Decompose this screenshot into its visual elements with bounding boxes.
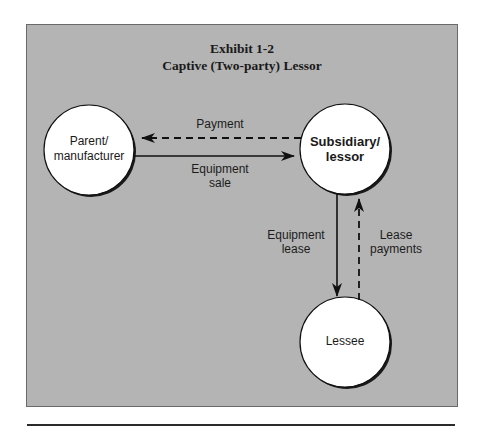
diagram-canvas <box>0 0 483 433</box>
edge-equipment-lease-label-line1: Equipment <box>256 228 336 242</box>
node-subsidiary-line1: Subsidiary/ <box>300 134 390 149</box>
node-subsidiary: Subsidiary/ lessor <box>300 134 390 164</box>
edge-lease-payments-label-line2: payments <box>356 242 436 256</box>
edge-equipment-sale-label-line2: sale <box>170 176 270 190</box>
node-subsidiary-line2: lessor <box>300 149 390 164</box>
node-lessee-line1: Lessee <box>300 334 390 349</box>
edge-lease-payments-label-line1: Lease <box>356 228 436 242</box>
node-parent: Parent/ manufacturer <box>44 134 134 164</box>
node-lessee: Lessee <box>300 334 390 349</box>
edge-equipment-sale-label-line1: Equipment <box>170 162 270 176</box>
edge-equipment-lease-label-line2: lease <box>256 242 336 256</box>
edge-equipment-lease-label: Equipment lease <box>256 228 336 256</box>
edge-lease-payments-label: Lease payments <box>356 228 436 256</box>
edge-payment-label: Payment <box>170 117 270 131</box>
edge-equipment-sale-label: Equipment sale <box>170 162 270 190</box>
bottom-rule-divider <box>27 424 455 426</box>
node-parent-line2: manufacturer <box>44 149 134 164</box>
node-parent-line1: Parent/ <box>44 134 134 149</box>
